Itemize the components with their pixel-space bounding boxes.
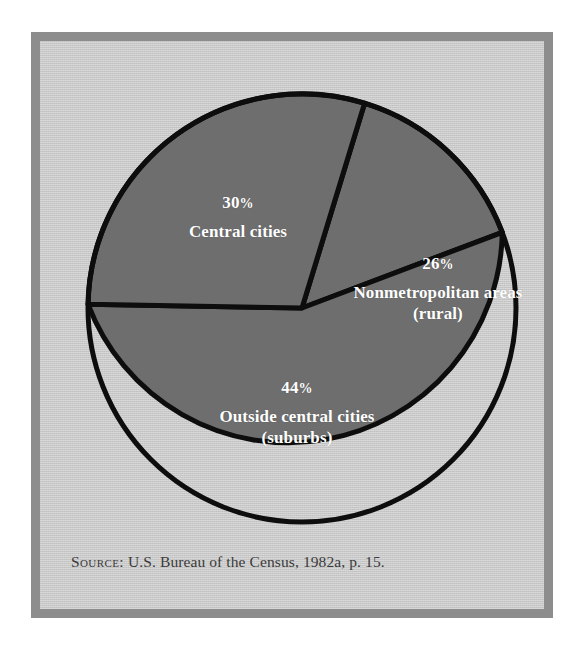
pie-label-nonmetropolitan-name: Nonmetropolitan areas [308, 283, 568, 303]
figure-frame: 30% Central cities 26% Nonmetropolitan a… [31, 32, 553, 618]
pie-label-nonmetropolitan-subname: (rural) [308, 304, 568, 324]
percent-symbol: % [440, 257, 454, 272]
source-label: Source: [71, 553, 124, 570]
pie-label-outside-central-cities-percent: 44% [152, 378, 442, 398]
pie-label-outside-central-cities: 44% Outside central cities (suburbs) [152, 378, 442, 448]
pie-label-outside-central-cities-name: Outside central cities [152, 407, 442, 427]
pie-label-nonmetropolitan-percent: 26% [308, 254, 568, 274]
pie-label-central-cities-percent: 30% [128, 193, 348, 213]
pie-label-outside-central-cities-subname: (suburbs) [152, 428, 442, 448]
source-note: Source: U.S. Bureau of the Census, 1982a… [71, 553, 385, 571]
pie-chart: 30% Central cities 26% Nonmetropolitan a… [40, 41, 544, 609]
source-text: U.S. Bureau of the Census, 1982a, p. 15. [128, 553, 385, 570]
percent-symbol: % [299, 381, 313, 396]
pie-label-nonmetropolitan: 26% Nonmetropolitan areas (rural) [308, 254, 568, 324]
pie-label-central-cities-name: Central cities [128, 222, 348, 242]
percent-symbol: % [240, 196, 254, 211]
pie-label-central-cities: 30% Central cities [128, 193, 348, 242]
pie-chart-graphic [40, 41, 544, 609]
